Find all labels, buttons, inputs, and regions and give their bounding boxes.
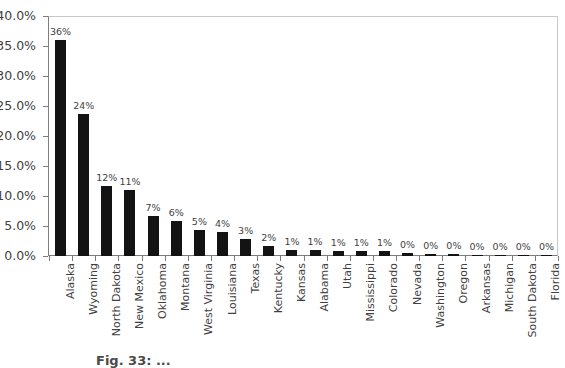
- bar: 0%: [402, 16, 413, 256]
- bar-value-label: 5%: [192, 217, 207, 227]
- bar: 12%: [101, 16, 112, 256]
- bar-rect: [78, 114, 89, 256]
- x-category-label: New Mexico: [134, 263, 145, 329]
- bar: 4%: [217, 16, 228, 256]
- x-axis-labels: AlaskaWyomingNorth DakotaNew MexicoOklah…: [49, 263, 558, 353]
- bar-value-label: 4%: [215, 219, 230, 229]
- x-category-label: South Dakota: [527, 263, 538, 337]
- x-category-label: Washington: [435, 263, 446, 328]
- bar: 0%: [472, 16, 483, 256]
- bar-value-label: 6%: [169, 208, 184, 218]
- x-tick-mark: [95, 256, 96, 261]
- x-tick-mark: [188, 256, 189, 261]
- bar: 0%: [495, 16, 506, 256]
- y-tick-label: 0.0%: [4, 250, 36, 262]
- x-axis-ticks: [49, 256, 558, 262]
- bar-value-label: 24%: [73, 101, 94, 111]
- bar-value-label: 1%: [354, 238, 369, 248]
- x-category-label: Alaska: [65, 263, 76, 299]
- bar-value-label: 36%: [50, 27, 71, 37]
- bar: 1%: [286, 16, 297, 256]
- bar: 3%: [240, 16, 251, 256]
- bar: 7%: [148, 16, 159, 256]
- bar: 1%: [356, 16, 367, 256]
- x-category-label: Louisiana: [227, 263, 238, 315]
- bar-rect: [194, 230, 205, 256]
- bar-rect: [171, 221, 182, 256]
- x-category-label: Alabama: [319, 263, 330, 312]
- bar-value-label: 3%: [238, 226, 253, 236]
- x-tick-mark: [165, 256, 166, 261]
- x-category-label: Mississippi: [365, 263, 376, 322]
- x-tick-mark: [211, 256, 212, 261]
- bar-value-label: 12%: [96, 173, 117, 183]
- x-tick-mark: [419, 256, 420, 261]
- bar-value-label: 1%: [308, 237, 323, 247]
- bar-rect: [124, 190, 135, 256]
- bar-value-label: 0%: [493, 242, 508, 252]
- bar: 2%: [263, 16, 274, 256]
- bar-value-label: 0%: [469, 242, 484, 252]
- x-category-label: Montana: [180, 263, 191, 311]
- bar-value-label: 11%: [119, 177, 140, 187]
- x-tick-mark: [512, 256, 513, 261]
- bar-value-label: 0%: [423, 241, 438, 251]
- x-tick-mark: [465, 256, 466, 261]
- y-tick-label: 35.0%: [0, 40, 36, 52]
- x-tick-mark: [442, 256, 443, 261]
- bar-value-label: 1%: [331, 238, 346, 248]
- y-tick-label: 25.0%: [0, 100, 36, 112]
- x-category-label: North Dakota: [111, 263, 122, 336]
- bar: 6%: [171, 16, 182, 256]
- x-category-label: Kentucky: [273, 263, 284, 313]
- x-tick-mark: [396, 256, 397, 261]
- x-tick-mark: [558, 256, 559, 261]
- bar-value-label: 0%: [516, 242, 531, 252]
- bar-value-label: 0%: [539, 242, 554, 252]
- bar: 1%: [379, 16, 390, 256]
- bar-value-label: 1%: [377, 238, 392, 248]
- x-category-label: Kansas: [296, 263, 307, 302]
- bar: 11%: [124, 16, 135, 256]
- x-tick-mark: [257, 256, 258, 261]
- x-category-label: Wyoming: [88, 263, 99, 315]
- x-category-label: Michigan: [504, 263, 515, 312]
- bar-rect: [217, 232, 228, 256]
- bar: 5%: [194, 16, 205, 256]
- bar: 0%: [541, 16, 552, 256]
- x-category-label: Florida: [550, 263, 561, 300]
- bar: 36%: [55, 16, 66, 256]
- x-category-label: Colorado: [388, 263, 399, 312]
- bar-rect: [148, 216, 159, 256]
- x-category-label: Oregon: [458, 263, 469, 303]
- bar-rect: [55, 40, 66, 256]
- bar: 0%: [425, 16, 436, 256]
- x-tick-mark: [49, 256, 50, 261]
- x-tick-mark: [280, 256, 281, 261]
- bar-value-label: 7%: [146, 203, 161, 213]
- x-tick-mark: [327, 256, 328, 261]
- bar-rect: [240, 239, 251, 256]
- x-category-label: West Virginia: [203, 263, 214, 335]
- bar-value-label: 0%: [400, 240, 415, 250]
- bar: 1%: [333, 16, 344, 256]
- y-axis: 40.0%35.0%30.0%25.0%20.0%15.0%10.0%5.0%0…: [0, 0, 44, 364]
- x-category-label: Arkansas: [481, 263, 492, 313]
- y-tick-label: 15.0%: [0, 160, 36, 172]
- bar-value-label: 2%: [261, 233, 276, 243]
- x-tick-mark: [234, 256, 235, 261]
- x-tick-mark: [142, 256, 143, 261]
- bar-rect: [101, 186, 112, 256]
- bar: 0%: [518, 16, 529, 256]
- x-category-label: Texas: [250, 263, 261, 293]
- bar-value-label: 0%: [446, 241, 461, 251]
- x-category-label: Oklahoma: [157, 263, 168, 319]
- x-tick-mark: [118, 256, 119, 261]
- y-tick-label: 20.0%: [0, 130, 36, 142]
- x-tick-mark: [489, 256, 490, 261]
- bars-container: 36%24%12%11%7%6%5%4%3%2%1%1%1%1%1%0%0%0%…: [49, 16, 558, 256]
- bar-value-label: 1%: [284, 237, 299, 247]
- y-tick-label: 40.0%: [0, 10, 36, 22]
- y-tick-label: 5.0%: [4, 220, 36, 232]
